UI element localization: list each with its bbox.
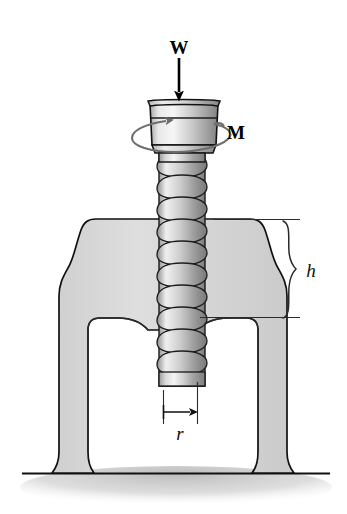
clamp-inner-left-edge <box>88 318 148 452</box>
screw-head-neck <box>159 153 205 162</box>
load-label: W <box>170 37 189 58</box>
radius-dimension <box>164 382 198 424</box>
screw-tip-face <box>159 372 205 386</box>
screw-clamp-diagram: W M h r <box>0 0 347 514</box>
moment-label: M <box>227 122 245 143</box>
screw-head-top-rim <box>148 100 220 107</box>
figure-container: W M h r <box>0 0 347 514</box>
radius-label: r <box>176 423 184 444</box>
height-label: h <box>306 260 316 281</box>
screw-head-body <box>150 104 218 145</box>
